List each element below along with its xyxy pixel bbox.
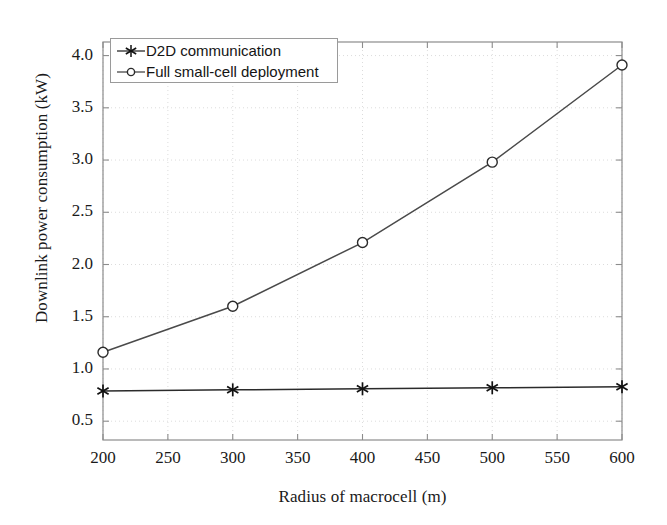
y-tick-label: 3.0 bbox=[41, 149, 93, 169]
y-tick-label: 1.0 bbox=[41, 358, 93, 378]
x-tick-label: 450 bbox=[397, 448, 457, 468]
x-tick-label: 600 bbox=[592, 448, 652, 468]
data-point-circle bbox=[487, 157, 497, 167]
x-tick-label: 500 bbox=[462, 448, 522, 468]
x-tick-label: 550 bbox=[527, 448, 587, 468]
y-tick-label: 2.5 bbox=[41, 201, 93, 221]
series-line-1 bbox=[103, 65, 622, 352]
y-tick-label: 4.0 bbox=[41, 45, 93, 65]
legend-item-d2d: D2D communication bbox=[116, 40, 281, 61]
chart-figure: Downlink power consumption (kW) Radius o… bbox=[0, 0, 667, 525]
y-tick-label: 2.0 bbox=[41, 254, 93, 274]
data-point-circle bbox=[98, 347, 108, 357]
legend-label-smallcell: Full small-cell deployment bbox=[146, 63, 319, 81]
x-tick-label: 250 bbox=[138, 448, 198, 468]
y-tick-label: 1.5 bbox=[41, 306, 93, 326]
data-point-circle bbox=[617, 60, 627, 70]
data-point-circle bbox=[358, 238, 368, 248]
x-tick-label: 300 bbox=[203, 448, 263, 468]
x-tick-label: 350 bbox=[268, 448, 328, 468]
x-tick-label: 400 bbox=[333, 448, 393, 468]
legend-label-d2d: D2D communication bbox=[146, 42, 281, 60]
data-point-circle bbox=[228, 301, 238, 311]
chart-legend: D2D communication Full small-cell deploy… bbox=[110, 38, 338, 83]
circle-marker-icon bbox=[116, 63, 146, 81]
asterisk-marker-icon bbox=[116, 42, 146, 60]
legend-item-smallcell: Full small-cell deployment bbox=[116, 61, 319, 82]
y-tick-label: 3.5 bbox=[41, 97, 93, 117]
x-tick-label: 200 bbox=[73, 448, 133, 468]
y-tick-label: 0.5 bbox=[41, 410, 93, 430]
